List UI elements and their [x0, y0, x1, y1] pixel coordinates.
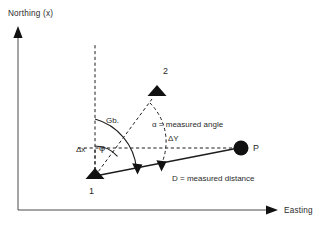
northing-axis-label: Northing (x) — [8, 9, 53, 18]
station-2-label: 2 — [163, 66, 168, 76]
station-1-triangle-marker[interactable] — [86, 168, 105, 179]
station-1-label: 1 — [89, 186, 94, 196]
point-p-label: P — [253, 143, 259, 153]
point-p[interactable]: P — [234, 141, 260, 156]
northing-axis-arrowhead — [13, 26, 22, 38]
axis-group — [13, 26, 278, 215]
station-1[interactable]: 1 — [86, 168, 105, 196]
alpha-measured-angle-label: α = measured angle — [152, 120, 224, 129]
point-p-circle-marker[interactable] — [234, 141, 249, 156]
station-2[interactable]: 2 — [148, 66, 169, 96]
diagram-canvas: 1 2 P Northing (x) Easting (y) Gb. φ α =… — [0, 0, 315, 227]
alpha-arc — [150, 103, 166, 165]
phi-label: φ — [99, 142, 105, 153]
delta-y-label: ΔY — [168, 134, 179, 143]
construction-lines — [78, 45, 234, 176]
easting-axis-label: Easting (y) — [284, 206, 315, 215]
survey-diagram: 1 2 P Northing (x) Easting (y) Gb. φ α =… — [0, 0, 315, 227]
measured-distance-label: D = measured distance — [172, 174, 255, 183]
station-2-triangle-marker[interactable] — [148, 85, 167, 96]
alpha-arc-arrowhead — [156, 160, 166, 171]
delta-x-label: Δx — [76, 145, 85, 154]
easting-axis-arrowhead — [266, 205, 278, 214]
grid-bearing-label: Gb. — [106, 116, 119, 125]
